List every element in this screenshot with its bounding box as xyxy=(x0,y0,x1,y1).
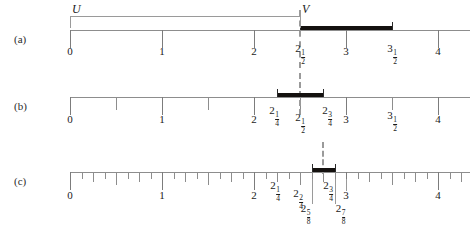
tick-label-whole: 2 xyxy=(336,202,342,214)
axis-tick xyxy=(450,172,451,179)
tick-label: 3 xyxy=(343,190,349,201)
axis-tick xyxy=(358,172,359,179)
axis-tick xyxy=(369,172,370,182)
axis-tick xyxy=(185,172,186,182)
label-leader-line xyxy=(312,179,313,204)
fraction-denominator: 8 xyxy=(342,217,346,226)
tick-label-fraction: 14 xyxy=(276,186,280,202)
axis-tick xyxy=(461,172,462,182)
axis-tick xyxy=(289,172,290,179)
axis-tick xyxy=(105,172,106,179)
fraction-denominator: 4 xyxy=(329,194,333,203)
axis-tick xyxy=(266,172,267,179)
tick-label-fraction: 34 xyxy=(329,186,333,202)
axis-tick xyxy=(162,172,163,190)
tick-label: 4 xyxy=(435,46,441,57)
tick-label: 278 xyxy=(336,203,346,225)
axis-tick xyxy=(128,172,129,179)
tick-label-whole: 2 xyxy=(301,202,307,214)
fraction-numerator: 3 xyxy=(329,186,333,194)
tick-label: 4 xyxy=(435,190,441,201)
interval-endpoint-cap xyxy=(335,164,336,172)
tick-label: 4 xyxy=(435,114,441,125)
fraction-denominator: 8 xyxy=(307,217,311,226)
tick-label-whole: 4 xyxy=(435,113,441,125)
axis-tick xyxy=(243,172,244,179)
fraction-numerator: 7 xyxy=(342,209,346,217)
axis-tick xyxy=(93,172,94,182)
fraction-numerator: 5 xyxy=(307,209,311,217)
axis-tick xyxy=(254,172,255,190)
axis-tick xyxy=(82,172,83,179)
tick-label: 234 xyxy=(323,180,333,202)
tick-label-whole: 4 xyxy=(435,45,441,57)
axis-tick xyxy=(197,172,198,179)
tick-label-fraction: 58 xyxy=(307,209,311,225)
axis-tick xyxy=(151,172,152,179)
tick-label-whole: 0 xyxy=(67,189,73,201)
axis-tick xyxy=(139,172,140,182)
axis-tick xyxy=(381,172,382,179)
tick-label-whole: 2 xyxy=(251,189,257,201)
axis-tick xyxy=(220,172,221,179)
tick-label: 1 xyxy=(159,190,165,201)
tick-label: 2 xyxy=(251,190,257,201)
interval-endpoint-cap xyxy=(312,164,313,172)
fraction-numerator: 2 xyxy=(299,194,303,202)
panel-label-c: (c) xyxy=(14,175,26,187)
axis-tick xyxy=(438,172,439,190)
label-leader-line xyxy=(346,179,347,191)
axis-tick xyxy=(312,172,313,179)
tick-label-whole: 4 xyxy=(435,189,441,201)
axis-tick xyxy=(404,172,405,179)
tick-label: 0 xyxy=(67,190,73,201)
axis-tick xyxy=(392,172,393,185)
tick-label-whole: 2 xyxy=(323,179,329,191)
axis-tick xyxy=(116,172,117,185)
fraction-denominator: 4 xyxy=(276,194,280,203)
tick-label-whole: 2 xyxy=(293,187,299,199)
tick-label-whole: 1 xyxy=(159,189,165,201)
fraction-numerator: 1 xyxy=(276,186,280,194)
axis-tick xyxy=(231,172,232,182)
axis-tick xyxy=(300,172,301,185)
label-leader-line xyxy=(335,179,336,204)
tick-label-whole: 2 xyxy=(270,179,276,191)
axis-tick xyxy=(70,172,71,190)
tick-label: 214 xyxy=(270,180,280,202)
axis-line xyxy=(70,172,470,173)
axis-tick xyxy=(208,172,209,185)
axis-tick xyxy=(427,172,428,179)
axis-tick xyxy=(415,172,416,182)
highlighted-interval-bar xyxy=(312,168,335,172)
tick-label: 258 xyxy=(301,203,311,225)
axis-tick xyxy=(174,172,175,179)
axis-tick xyxy=(335,172,336,179)
tick-label-fraction: 78 xyxy=(342,209,346,225)
